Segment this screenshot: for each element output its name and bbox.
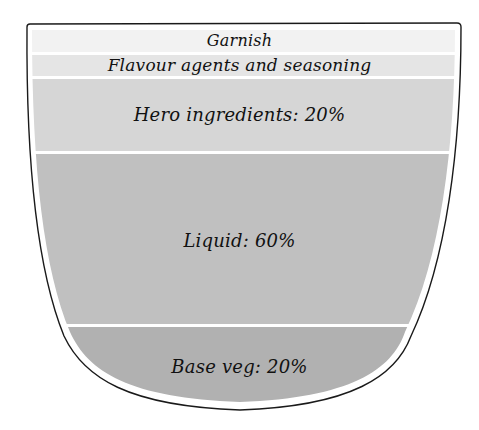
label-base: Base veg: 20% xyxy=(0,356,479,377)
label-flavour: Flavour agents and seasoning xyxy=(0,55,479,75)
label-hero: Hero ingredients: 20% xyxy=(0,104,479,125)
label-liquid: Liquid: 60% xyxy=(0,230,479,251)
bowl-diagram: Garnish Flavour agents and seasoning Her… xyxy=(0,0,479,430)
label-garnish: Garnish xyxy=(0,31,479,50)
